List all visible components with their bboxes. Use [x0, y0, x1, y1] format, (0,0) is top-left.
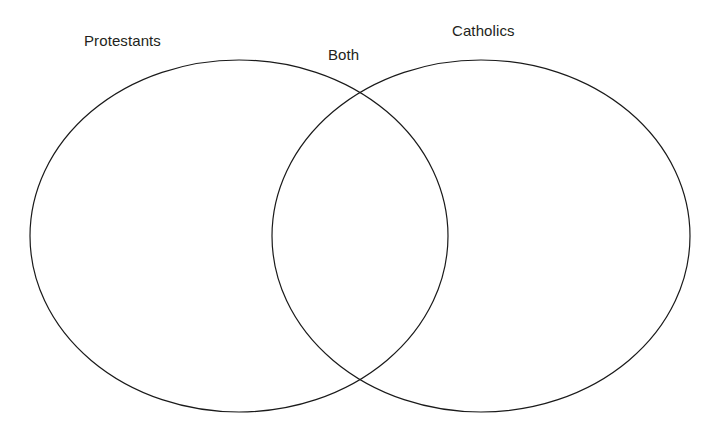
protestants-label: Protestants	[84, 33, 161, 48]
catholics-label: Catholics	[452, 23, 515, 38]
both-label: Both	[328, 47, 359, 62]
diagram-background	[0, 0, 719, 433]
venn-diagram-canvas	[0, 0, 719, 433]
